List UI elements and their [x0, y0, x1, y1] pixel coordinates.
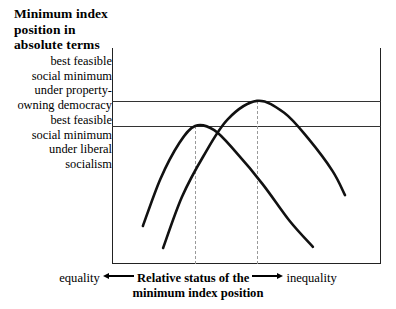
plot-area	[112, 48, 381, 264]
page-title: Minimum index position in absolute terms	[14, 6, 144, 53]
arrow-right-icon	[249, 272, 283, 280]
curve-liberal-socialism	[143, 125, 313, 247]
x-axis-center-label-line1: Relative status of the	[137, 271, 249, 285]
y-annotation-liberal-socialism: best feasible social minimum under liber…	[0, 113, 112, 171]
curve-layer	[112, 48, 381, 264]
x-axis-center-label-line2: minimum index position	[0, 286, 396, 301]
x-axis-right-label: inequality	[286, 271, 336, 285]
arrow-left-icon	[103, 272, 137, 280]
x-axis-left-label: equality	[59, 271, 100, 285]
y-annotation-property-owning-democracy: best feasible social minimum under prope…	[0, 54, 112, 112]
figure-root: Minimum index position in absolute terms…	[0, 0, 396, 309]
x-axis-caption: equality Relative status of the inequali…	[0, 271, 396, 301]
